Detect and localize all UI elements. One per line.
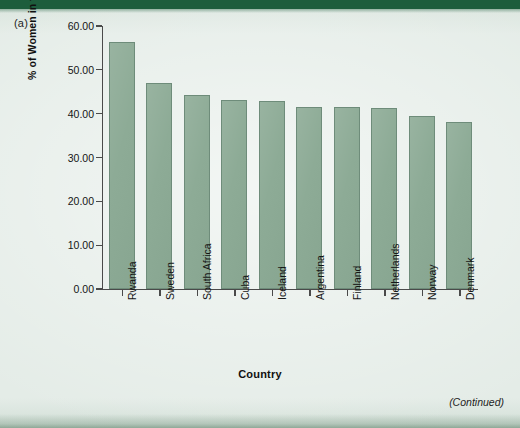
y-axis-tick-mark [96,25,102,26]
x-axis-tick-label: Iceland [276,266,288,300]
y-axis-tick-mark [96,201,102,202]
y-axis-tick-label: 40.00 [46,108,94,120]
x-axis-tick-mark [422,290,423,296]
x-axis-tick-mark [459,290,460,296]
x-axis-tick-label: Norway [426,264,438,300]
x-axis-tick-mark [347,290,348,296]
y-axis-tick-label: 30.00 [46,152,94,164]
x-axis-tick-mark [159,290,160,296]
y-axis-tick-labels: 0.0010.0020.0030.0040.0050.0060.00 [46,0,94,428]
bar [334,107,360,289]
y-axis-tick-mark [96,245,102,246]
y-axis-line [102,26,103,290]
page-bottom-edge [0,414,520,428]
x-axis-tick-label: Netherlands [389,243,401,300]
y-axis-tick-label: 50.00 [46,64,94,76]
x-axis-tick-mark [122,290,123,296]
x-axis-tick-mark [309,290,310,296]
x-axis-tick-label: Finland [351,266,363,300]
x-axis-tick-mark [384,290,385,296]
figure-page: (a) % of Women in the Parliament 0.0010.… [0,0,520,428]
x-axis-tick-label: Rwanda [126,261,138,300]
y-axis-tick-mark [96,69,102,70]
x-axis-tick-mark [234,290,235,296]
y-axis-tick-mark [96,157,102,158]
y-axis-tick-mark [96,113,102,114]
y-axis-tick-mark [96,288,102,289]
x-axis-tick-label: Argentina [314,255,326,300]
x-axis-tick-label: South Africa [201,243,213,300]
x-axis-tick-label: Denmark [464,257,476,300]
continued-note: (Continued) [449,396,504,408]
bar [146,83,172,289]
y-axis-tick-label: 20.00 [46,195,94,207]
y-axis-title: % of Women in the Parliament [26,0,38,80]
bar [221,100,247,289]
y-axis-tick-label: 10.00 [46,239,94,251]
x-axis-tick-mark [197,290,198,296]
bar [259,101,285,289]
bar [109,42,135,289]
y-axis-tick-label: 60.00 [46,20,94,32]
x-axis-tick-label: Cuba [239,275,251,300]
bar-chart: % of Women in the Parliament 0.0010.0020… [0,0,520,428]
y-axis-tick-label: 0.00 [46,283,94,295]
x-axis-title: Country [0,368,520,380]
x-axis-tick-mark [272,290,273,296]
x-axis-tick-label: Sweden [164,262,176,300]
